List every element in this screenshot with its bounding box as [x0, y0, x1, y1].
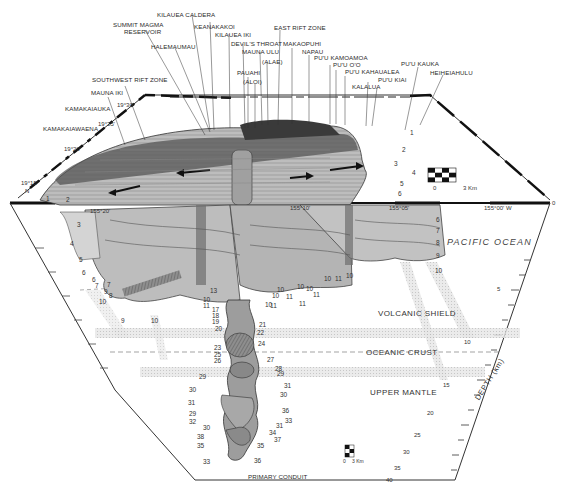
layer-num: 9: [104, 289, 108, 296]
lon-155-20: 155°20': [90, 208, 110, 214]
layer-num: 11: [313, 292, 320, 299]
lon-155-00: 155°00' W: [484, 205, 512, 211]
scale-lower-start: 0: [343, 459, 346, 464]
origin-zero: 0: [552, 200, 555, 206]
scale-bar-upper-icon: [428, 168, 456, 182]
layer-num: 10: [277, 287, 284, 294]
label-mauna-ulu: MAUNA ULU: [242, 49, 279, 55]
scale-upper-start: 0: [433, 185, 436, 191]
label-southwest-rift-zone: SOUTHWEST RIFT ZONE: [92, 77, 168, 83]
layer-num: 11: [335, 276, 342, 283]
layer-num: 7: [436, 228, 440, 235]
label-puu-kauka: PU'U KAUKA: [401, 61, 439, 67]
lat-19-20: 19°20': [64, 146, 81, 152]
layer-num: 7: [95, 283, 99, 290]
depth-tick-20: 20: [427, 410, 434, 416]
scale-bar-lower-icon: [345, 445, 354, 457]
conduit-num: 30: [280, 392, 287, 399]
scale-lower-end: 3 Km: [352, 459, 364, 464]
layer-num: 6: [82, 270, 86, 277]
layer-num: 2: [402, 147, 406, 154]
layer-num: 10: [265, 302, 272, 309]
conduit-num: 13: [210, 288, 217, 295]
depth-tick-35: 35: [394, 465, 401, 471]
conduit-num: 30: [189, 387, 196, 394]
layer-num: 2: [66, 197, 70, 204]
conduit-num: 27: [267, 357, 274, 364]
layer-num: 10: [272, 293, 279, 300]
label-kilauea-iki: KILAUEA IKI: [215, 32, 251, 38]
layer-num: 10: [324, 276, 331, 283]
layer-num: 8: [436, 240, 440, 247]
layer-num: 1: [46, 196, 50, 203]
depth-tick-10: 10: [464, 339, 471, 345]
zone-pacific-ocean: PACIFIC OCEAN: [447, 238, 532, 247]
conduit-num: 21: [259, 322, 266, 329]
lon-155-10: 155°10': [290, 205, 310, 211]
layer-num: 10: [99, 299, 106, 306]
label-keanakakoi: KEANAKAKOI: [194, 24, 235, 30]
conduit-num: 29: [199, 374, 206, 381]
layer-num: 10: [297, 284, 304, 291]
conduit-num: 26: [214, 358, 221, 365]
depth-tick-30: 30: [403, 449, 410, 455]
conduit-num: 35: [197, 443, 204, 450]
layer-num: 4: [70, 241, 74, 248]
label-devils-throat: DEVIL'S THROAT: [231, 41, 282, 47]
conduit-num: 31: [188, 400, 195, 407]
layer-num: 6: [436, 217, 440, 224]
label-halemaumau: HALEMAUMAU: [151, 44, 196, 50]
label-kamakaiawaena: KAMAKAIAWAENA: [43, 126, 98, 132]
layer-num: 10: [346, 273, 353, 280]
label-summit-magma-reservoir-2: RESERVOIR: [124, 29, 161, 35]
conduit-num: 38: [197, 434, 204, 441]
label-primary-conduit: PRIMARY CONDUIT: [248, 474, 307, 480]
label-mauna-iki: MAUNA IKI: [91, 90, 123, 96]
label-kalalua: KALALUA: [352, 84, 381, 90]
lat-19-15: 19°15': [21, 180, 38, 186]
conduit-num: 29: [277, 371, 284, 378]
label-east-rift-zone: EAST RIFT ZONE: [274, 25, 326, 31]
lat-19-25: 19°25': [98, 121, 115, 127]
layer-num: 11: [286, 294, 293, 301]
label-puu-kahaualea: PU'U KAHAUALEA: [345, 69, 400, 75]
label-kamakaiauka: KAMAKAIAUKA: [65, 106, 110, 112]
conduit-num: 20: [215, 326, 222, 333]
conduit-num: 29: [189, 411, 196, 418]
label-aloi: (ALOI): [243, 79, 262, 85]
primary-conduit: [221, 300, 259, 460]
layer-num: 11: [299, 301, 306, 308]
layer-num: 9: [121, 318, 125, 325]
conduit-num: 30: [203, 425, 210, 432]
zone-upper-mantle: UPPER MANTLE: [370, 389, 437, 397]
shield-cross-section: [40, 120, 366, 205]
layer-num: 8: [109, 293, 113, 300]
conduit-num: 31: [284, 383, 291, 390]
scale-upper-end: 3 Km: [463, 185, 477, 191]
label-kilauea-caldera: KILAUEA CALDERA: [157, 12, 215, 18]
depth-tick-40: 40: [386, 477, 393, 483]
depth-axis-ticks: [451, 260, 530, 470]
conduit-num: 36: [282, 408, 289, 415]
depth-tick-5: 5: [497, 286, 500, 292]
label-makaopuhi: MAKAOPUHI: [283, 41, 321, 47]
conduit-num: 37: [274, 437, 281, 444]
depth-tick-25: 25: [414, 432, 421, 438]
north-label: N: [25, 188, 29, 194]
label-heiheiahulu: HEIHEIAHULU: [430, 70, 473, 76]
zone-volcanic-shield: VOLCANIC SHIELD: [378, 310, 456, 318]
layer-num: 10: [151, 318, 158, 325]
conduit-num: 33: [285, 418, 292, 425]
depth-tick-15: 15: [443, 382, 450, 388]
conduit-num: 35: [257, 443, 264, 450]
conduit-num: 32: [189, 419, 196, 426]
conduit-num: 36: [254, 458, 261, 465]
zone-oceanic-crust: OCEANIC CRUST: [366, 349, 437, 357]
lon-155-05: 155°05': [389, 205, 409, 211]
conduit-num: 33: [203, 459, 210, 466]
lat-19-30: 19°30': [117, 102, 134, 108]
conduit-num: 31: [276, 423, 283, 430]
layer-num: 10: [435, 268, 442, 275]
label-puu-kiai: PU'U KIAI: [378, 77, 407, 83]
layer-num: 5: [400, 181, 404, 188]
